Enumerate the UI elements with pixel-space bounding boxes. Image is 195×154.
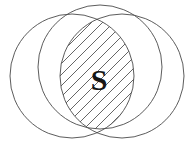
shaded-region-label: S [91, 63, 108, 96]
venn-diagram-figure: S [0, 0, 195, 154]
right-circle [60, 14, 184, 138]
venn-diagram-canvas: S [0, 0, 195, 154]
